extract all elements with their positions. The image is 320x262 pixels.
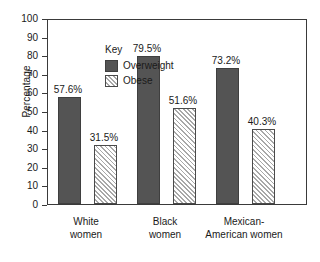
- legend-item-overweight: Overweight: [105, 59, 174, 72]
- y-axis-tick-label: 40: [27, 124, 38, 137]
- y-axis-tick-label: 100: [21, 12, 38, 25]
- bar-obese-1: [94, 145, 117, 204]
- x-axis-category-label-line: American women: [189, 228, 299, 241]
- legend-swatch-obese: [105, 75, 118, 87]
- plot-area: Key OverweightObese: [47, 19, 307, 205]
- bar-overweight-1: [58, 97, 81, 204]
- bar-obese-2: [173, 108, 196, 204]
- y-axis-tick-mark: [42, 205, 47, 206]
- legend-label: Overweight: [123, 59, 174, 72]
- y-axis-tick-label: 20: [27, 161, 38, 174]
- y-axis-tick-label: 50: [27, 105, 38, 118]
- bar-value-label: 79.5%: [127, 43, 167, 55]
- bar-value-label: 51.6%: [163, 95, 203, 107]
- y-axis-tick-label: 30: [27, 142, 38, 155]
- y-axis-tick-label: 70: [27, 68, 38, 81]
- legend-swatch-overweight: [105, 60, 118, 72]
- x-axis-category-label-line: Mexican-: [189, 215, 299, 228]
- bar-value-label: 57.6%: [48, 84, 88, 96]
- bar-chart: Percentage 1009080706050403020100 Key Ov…: [0, 0, 320, 262]
- legend-label: Obese: [123, 74, 152, 87]
- legend-rows: OverweightObese: [105, 59, 174, 87]
- legend-item-obese: Obese: [105, 74, 174, 87]
- bar-value-label: 40.3%: [242, 116, 282, 128]
- bar-obese-3: [252, 129, 275, 204]
- y-axis-tick-label: 0: [32, 198, 38, 211]
- bar-overweight-3: [216, 68, 239, 204]
- bar-value-label: 31.5%: [84, 132, 124, 144]
- y-axis-tick-label: 80: [27, 49, 38, 62]
- y-axis-tick-label: 60: [27, 86, 38, 99]
- bar-value-label: 73.2%: [206, 55, 246, 67]
- y-axis-tick-label: 10: [27, 179, 38, 192]
- y-axis-tick-label: 90: [27, 31, 38, 44]
- x-axis-category-label: Mexican-American women: [189, 215, 299, 241]
